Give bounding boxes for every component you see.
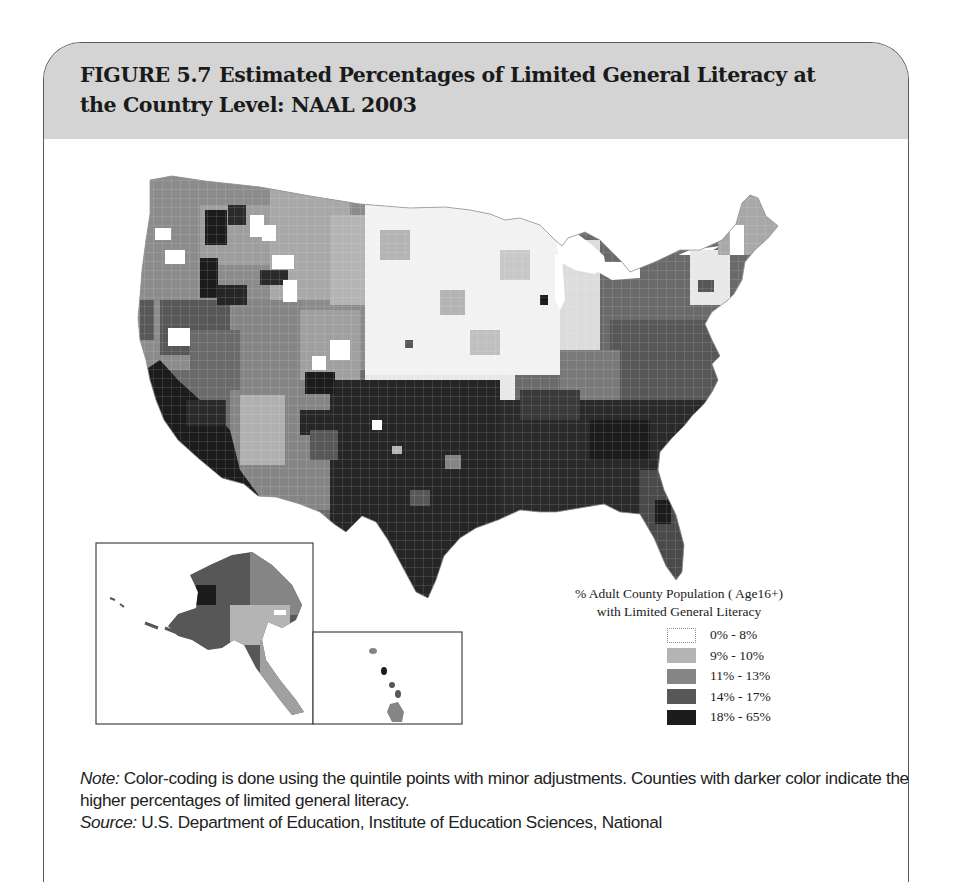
legend-title-line-1: % Adult County Population ( Age16+) [563,585,795,603]
hawaii-inset-frame [313,632,462,724]
legend-swatch [667,689,696,704]
legend-label: 14% - 17% [710,689,771,705]
source-text: U.S. Department of Education, Institute … [137,812,662,832]
legend-title: % Adult County Population ( Age16+) with… [563,585,795,621]
legend-item-0-8: 0% - 8% [667,625,795,646]
legend-label: 11% - 13% [710,668,770,684]
note-label: Note: [80,768,119,788]
legend-items: 0% - 8% 9% - 10% 11% - 13% 14% - 17% 18%… [667,625,795,728]
legend-swatch [667,648,696,663]
legend-item-14-17: 14% - 17% [667,687,795,708]
map-legend: % Adult County Population ( Age16+) with… [545,585,795,728]
legend-swatch [667,628,696,643]
legend-swatch [667,710,696,725]
figure-note: Note: Color-coding is done using the qui… [80,767,910,833]
legend-item-11-13: 11% - 13% [667,666,795,687]
legend-swatch [667,669,696,684]
legend-label: 0% - 8% [710,627,757,643]
legend-title-line-2: with Limited General Literacy [563,603,795,621]
note-text: Color-coding is done using the quintile … [80,768,909,810]
legend-item-9-10: 9% - 10% [667,646,795,667]
legend-label: 18% - 65% [710,709,771,725]
legend-item-18-65: 18% - 65% [667,707,795,728]
legend-label: 9% - 10% [710,648,764,664]
source-label: Source: [80,812,137,832]
